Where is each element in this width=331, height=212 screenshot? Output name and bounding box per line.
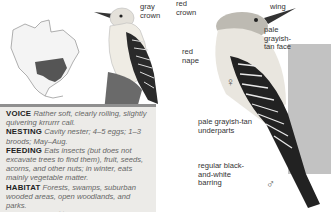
label-at-base-of-outer-wing: at base of outer wing [270, 0, 330, 11]
fact-voice: VOICE Rather soft, clearly rolling, slig… [6, 109, 152, 127]
female-symbol: ♀ [226, 75, 235, 89]
fact-feeding: FEEDING Eats insects (but does not excav… [6, 146, 152, 183]
label-regular-barring: regular black-and-white barring [198, 162, 248, 188]
label-pale-grayish-tan-face: pale grayish-tan face [264, 26, 300, 52]
label-red-crown: red crown [176, 0, 204, 17]
label-pale-grayish-tan-underparts: pale grayish-tan underparts [198, 118, 254, 135]
facts-panel: VOICE Rather soft, clearly rolling, slig… [0, 104, 156, 212]
fact-length: LENGTH 9–10½in (23–27cm) [6, 210, 152, 212]
fact-habitat: HABITAT Forests, swamps, suburban wooded… [6, 183, 152, 211]
male-symbol: ♂ [266, 177, 275, 191]
label-red-nape: red nape [182, 48, 204, 65]
fact-nesting: NESTING Cavity nester; 4–5 eggs; 1–3 bro… [6, 127, 152, 145]
female-bird-illustration [92, 4, 164, 112]
label-gray-crown: gray crown [140, 3, 170, 20]
range-map [5, 18, 85, 100]
